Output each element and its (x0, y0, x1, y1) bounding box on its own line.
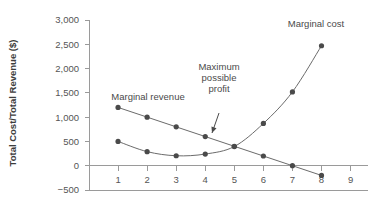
y-tick-label: 1,000 (55, 112, 79, 123)
data-point (290, 89, 295, 94)
y-tick-label: 0 (74, 160, 79, 171)
x-tick-label: 5 (232, 174, 237, 185)
chart-container: Total Cost/Total Revenue ($) −50005001,0… (0, 0, 376, 209)
y-axis-tick-marks (85, 20, 89, 190)
data-point (174, 153, 179, 158)
data-point (174, 124, 179, 129)
data-point (145, 115, 150, 120)
data-point (145, 149, 150, 154)
annotation-arrow-head (211, 126, 216, 133)
y-tick-label: 1,500 (55, 87, 79, 98)
y-tick-label: 2,500 (55, 39, 79, 50)
data-point (203, 151, 208, 156)
maximum-possible-profit-label: profit (208, 83, 229, 94)
y-tick-label: −500 (58, 184, 79, 195)
marginal-cost-revenue-chart: Total Cost/Total Revenue ($) −50005001,0… (0, 0, 376, 209)
data-point (115, 105, 120, 110)
data-point (319, 43, 324, 48)
data-point (261, 153, 266, 158)
y-tick-label: 3,000 (55, 14, 79, 25)
y-axis-title: Total Cost/Total Revenue ($) (7, 40, 18, 167)
maximum-possible-profit-label: possible (202, 72, 237, 83)
x-tick-label: 4 (203, 174, 208, 185)
y-tick-label: 500 (63, 136, 79, 147)
y-axis-tick-labels: −50005001,0001,5002,0002,5003,000 (55, 14, 79, 195)
x-tick-label: 2 (144, 174, 149, 185)
x-tick-label: 1 (115, 174, 120, 185)
maximum-possible-profit-label: Maximum (198, 61, 239, 72)
marginal-cost-label: Marginal cost (288, 18, 345, 29)
x-tick-label: 3 (174, 174, 179, 185)
x-axis-tick-labels: 123456789 (115, 174, 353, 185)
data-point (290, 163, 295, 168)
data-point (261, 121, 266, 126)
x-tick-label: 7 (290, 174, 295, 185)
x-axis-tick-marks (118, 166, 351, 171)
x-tick-label: 6 (261, 174, 266, 185)
y-axis-title-group: Total Cost/Total Revenue ($) (7, 40, 18, 167)
data-point (319, 173, 324, 178)
data-point (115, 139, 120, 144)
y-tick-label: 2,000 (55, 63, 79, 74)
x-tick-label: 9 (348, 174, 353, 185)
marginal-revenue-label: Marginal revenue (111, 91, 184, 102)
data-point (232, 144, 237, 149)
data-point (203, 134, 208, 139)
